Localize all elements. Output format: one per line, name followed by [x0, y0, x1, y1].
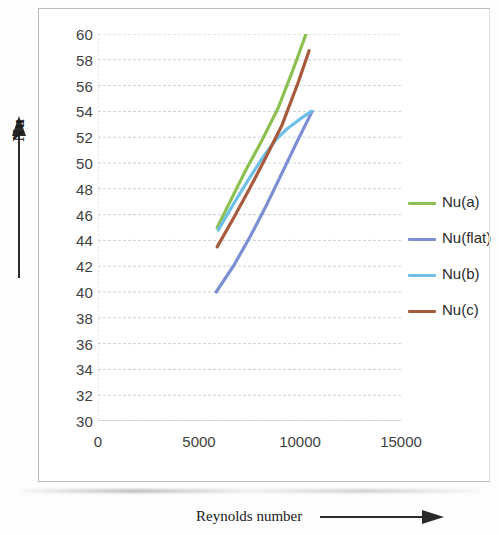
chart-legend: Nu(a)Nu(flat)Nu(b)Nu(c) — [408, 187, 494, 331]
y-tick-label: 52 — [53, 129, 93, 146]
scan-artifact — [20, 489, 480, 493]
y-tick-label: 50 — [53, 155, 93, 172]
legend-label: Nu(a) — [442, 193, 480, 210]
y-axis-title: Nu — [9, 103, 29, 157]
y-tick-label: 58 — [53, 51, 93, 68]
series-line-nub — [218, 111, 311, 230]
x-tick-label: 15000 — [380, 433, 422, 450]
legend-label: Nu(c) — [442, 301, 479, 318]
legend-color-swatch — [408, 274, 436, 277]
series-line-nua — [217, 34, 306, 228]
legend-label: Nu(b) — [442, 265, 480, 282]
x-axis-title: Reynolds number — [196, 508, 302, 525]
legend-color-swatch — [408, 310, 436, 313]
y-tick-label: 34 — [53, 361, 93, 378]
y-tick-label: 32 — [53, 387, 93, 404]
legend-item[interactable]: Nu(c) — [408, 295, 494, 331]
y-tick-label: 56 — [53, 77, 93, 94]
legend-color-swatch — [408, 238, 436, 241]
legend-item[interactable]: Nu(b) — [408, 259, 494, 295]
x-tick-label: 10000 — [279, 433, 321, 450]
y-tick-label: 38 — [53, 309, 93, 326]
x-axis-tick-labels: 050001000015000 — [98, 433, 401, 457]
y-tick-label: 36 — [53, 335, 93, 352]
scanned-page: 60585654525048464442403836343230 0500010… — [0, 0, 499, 535]
plot-area — [98, 34, 401, 421]
y-tick-label: 54 — [53, 103, 93, 120]
y-tick-label: 60 — [53, 26, 93, 43]
legend-item[interactable]: Nu(flat) — [408, 223, 494, 259]
plot-svg — [98, 34, 401, 421]
legend-color-swatch — [408, 202, 436, 205]
y-tick-label: 40 — [53, 284, 93, 301]
legend-label: Nu(flat) — [442, 229, 491, 246]
y-tick-label: 44 — [53, 232, 93, 249]
chart-frame: 60585654525048464442403836343230 0500010… — [38, 8, 490, 482]
y-tick-label: 46 — [53, 206, 93, 223]
legend-item[interactable]: Nu(a) — [408, 187, 494, 223]
y-tick-label: 30 — [53, 413, 93, 430]
x-arrow-icon — [318, 507, 448, 527]
x-tick-label: 0 — [94, 433, 102, 450]
y-tick-label: 42 — [53, 258, 93, 275]
x-axis-title-group: Reynolds number — [196, 508, 496, 532]
y-axis-tick-labels: 60585654525048464442403836343230 — [49, 34, 93, 421]
y-tick-label: 48 — [53, 180, 93, 197]
x-tick-label: 5000 — [182, 433, 215, 450]
